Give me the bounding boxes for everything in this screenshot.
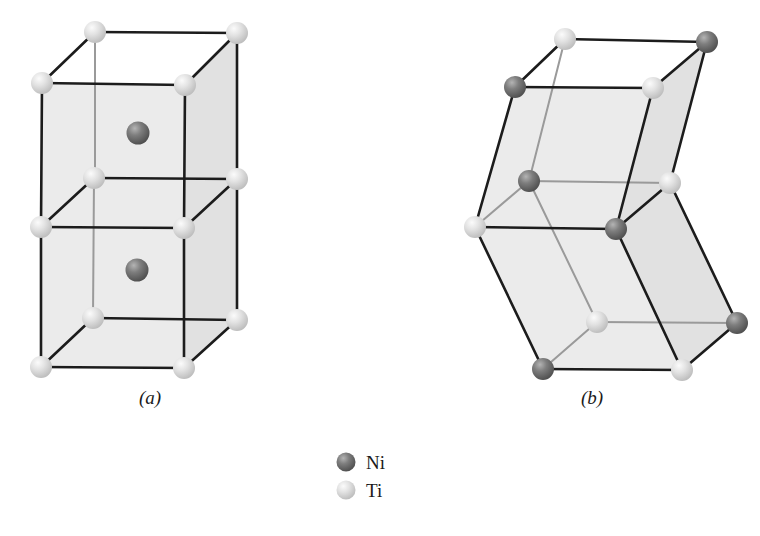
atom-ti-top_front_right	[174, 74, 196, 96]
atom-ni-bot_back_right	[726, 312, 748, 334]
atom-ti-top_front_left	[31, 72, 53, 94]
atom-ni-centre-1	[126, 259, 149, 282]
panel-label-b: (b)	[581, 387, 603, 409]
atom-ti-bot_front_left	[30, 356, 52, 378]
atom-ti-bot_front_right	[671, 359, 693, 381]
atom-ni-mid_front_right	[605, 218, 627, 240]
legend-swatch-ni-icon	[337, 453, 356, 472]
legend-label-ni: Ni	[366, 452, 385, 473]
atom-ni-mid_back_left	[518, 170, 540, 192]
atom-ti-top_back_right	[226, 22, 248, 44]
legend-label-ti: Ti	[366, 480, 382, 501]
panel-a-edge-front-left-upper	[41, 83, 42, 227]
atom-ni-bot_front_left	[532, 358, 554, 380]
atom-ti-top_front_right	[642, 77, 664, 99]
crystal-structure-figure: (a) (b) Ni Ti	[0, 0, 760, 536]
atom-ti-top_back_left	[554, 28, 576, 50]
atom-ti-bot_back_left	[586, 311, 608, 333]
panel-b-edge-top-front	[515, 87, 653, 88]
panel-a-edge-mid-back	[94, 178, 237, 179]
atom-ti-bot_back_right	[226, 309, 248, 331]
atom-ti-bot_front_right	[173, 357, 195, 379]
atom-ti-mid_front_right	[173, 217, 195, 239]
atom-ti-mid_front_left	[30, 216, 52, 238]
panel-a-edge-front-right-upper	[184, 85, 185, 228]
panel-label-a: (a)	[139, 387, 161, 409]
atom-ti-mid_back_right	[659, 172, 681, 194]
atom-ni-top_front_left	[504, 76, 526, 98]
figure-canvas: (a) (b) Ni Ti	[0, 0, 760, 536]
atom-ni-top_back_right	[696, 31, 718, 53]
atom-ti-bot_back_left	[82, 307, 104, 329]
atom-ti-mid_front_left	[464, 216, 486, 238]
atom-ti-top_back_left	[84, 21, 106, 43]
legend-swatch-ti-icon	[337, 481, 356, 500]
atom-ni-centre-0	[127, 122, 150, 145]
panel-b-edge-bot-back	[597, 322, 737, 323]
panel-a-edge-bot-front	[41, 367, 184, 368]
panel-a-edge-back-left-lower	[93, 178, 94, 318]
atom-ti-mid_back_right	[226, 168, 248, 190]
panel-a-edge-mid-front	[41, 227, 184, 228]
atom-ti-mid_back_left	[83, 167, 105, 189]
panel-b-edge-bot-front	[543, 369, 682, 370]
panel-a-edge-top-back	[95, 32, 237, 33]
